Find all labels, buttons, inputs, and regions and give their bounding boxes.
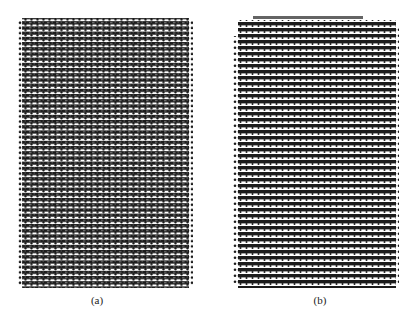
lattice-image-a — [18, 16, 193, 290]
panel-b-label: (b) — [300, 294, 340, 306]
panel-a-label: (a) — [77, 294, 117, 306]
lattice-image-b — [233, 16, 399, 290]
panel-b-dot-lattice — [233, 16, 399, 290]
panel-a-dot-lattice — [18, 16, 193, 290]
